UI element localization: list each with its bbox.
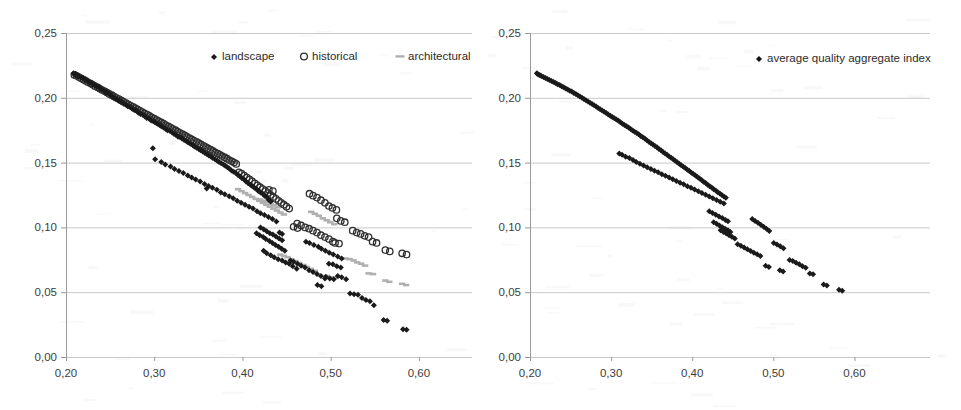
legend-label: historical [312,50,357,62]
legend-label: architectural [408,50,471,62]
data-point [150,145,156,151]
left-axes-group: 0,000,050,100,150,200,250,200,300,400,50… [12,10,474,404]
legend-open-circle-icon [301,53,308,60]
y-tick-label: 0,10 [35,221,57,233]
x-tick-label: 0,20 [55,367,77,379]
x-tick-label: 0,30 [600,367,622,379]
x-tick-label: 0,60 [843,367,865,379]
legend-label: average quality aggregate index [767,52,931,64]
legend-label: landscape [222,50,274,62]
y-tick-label: 0,05 [499,286,521,298]
legend-dash-icon [396,55,405,57]
data-point [386,281,392,284]
x-tick-label: 0,50 [319,367,341,379]
x-tick-label: 0,50 [762,367,784,379]
data-point [373,240,379,246]
x-tick-label: 0,30 [143,367,165,379]
y-tick-label: 0,15 [35,157,57,169]
right-plot-svg: 0,000,050,100,150,200,250,200,300,400,50… [480,0,961,410]
series-landscape [70,70,409,333]
data-point [362,264,368,267]
legend-filled-diamond-icon [211,54,217,60]
left-legend: landscapehistoricalarchitectural [211,50,471,62]
y-tick-label: 0,15 [499,157,521,169]
x-tick-label: 0,40 [681,367,703,379]
y-tick-label: 0,00 [35,351,57,363]
y-tick-label: 0,05 [35,286,57,298]
series-average-quality-aggregate-index [534,70,845,293]
data-point [387,248,393,254]
data-point [336,240,342,246]
x-tick-label: 0,40 [231,367,253,379]
left-plot-svg: 0,000,050,100,150,200,250,200,300,400,50… [0,0,480,410]
scatter-figure: 0,000,050,100,150,200,250,200,300,400,50… [0,0,961,410]
data-point [152,156,158,162]
right-data-points [534,70,845,293]
right-legend: average quality aggregate index [756,52,931,64]
data-point [382,247,388,253]
y-tick-label: 0,25 [35,27,57,39]
y-tick-label: 0,20 [499,92,521,104]
data-point [281,213,287,216]
data-point [371,302,377,308]
x-tick-label: 0,20 [519,367,541,379]
data-point [403,284,409,287]
data-point [399,250,405,256]
data-point [369,238,375,244]
legend-item-architectural[interactable]: architectural [396,50,471,62]
legend-item-average-quality-aggregate-index[interactable]: average quality aggregate index [756,52,931,64]
right-axes-group: 0,000,050,100,150,200,250,200,300,400,50… [489,10,946,407]
x-tick-label: 0,60 [408,367,430,379]
legend-item-historical[interactable]: historical [301,50,358,62]
legend-item-landscape[interactable]: landscape [211,50,274,62]
y-tick-label: 0,20 [35,92,57,104]
data-point [316,214,322,217]
y-tick-label: 0,00 [499,351,521,363]
y-tick-label: 0,10 [499,221,521,233]
data-point [403,251,409,257]
quality-by-category-chart: 0,000,050,100,150,200,250,200,300,400,50… [0,0,480,410]
data-point [331,223,337,226]
average-quality-chart: 0,000,050,100,150,200,250,200,300,400,50… [480,0,961,410]
left-data-points [70,70,409,333]
data-point [342,219,348,225]
legend-filled-diamond-icon [756,56,762,62]
data-point [370,273,376,276]
y-tick-label: 0,25 [499,27,521,39]
